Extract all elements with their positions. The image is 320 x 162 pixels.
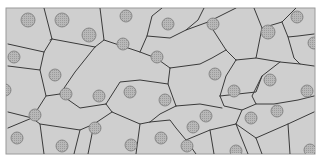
cell-tissue-illustration [0,0,320,162]
nucleus [271,105,283,117]
nucleus [124,86,136,98]
nucleus [151,51,163,63]
nucleus [209,68,221,80]
nucleus [60,88,72,100]
nucleus [120,10,132,22]
nucleus [93,90,105,102]
nucleus [125,139,137,151]
nucleus [261,25,275,39]
nucleus [207,18,219,30]
nucleus [200,110,212,122]
nucleus [308,37,320,49]
nucleus [55,13,69,27]
nucleus [11,132,23,144]
nucleus [117,38,129,50]
nucleus [155,132,167,144]
nucleus [228,85,240,97]
nucleus [29,109,41,121]
nucleus [159,94,171,106]
nucleus [82,28,96,42]
nucleus [230,145,242,157]
nucleus [181,140,193,152]
nucleus [264,74,276,86]
nucleus [8,51,20,63]
nucleus [245,112,257,124]
nucleus [301,85,313,97]
nucleus [187,121,199,133]
epithelium-diagram [0,0,320,162]
nucleus [21,13,35,27]
nucleus [49,69,61,81]
nucleus [291,11,303,23]
nucleus [56,140,68,152]
nucleus [89,122,101,134]
nucleus [162,18,174,30]
